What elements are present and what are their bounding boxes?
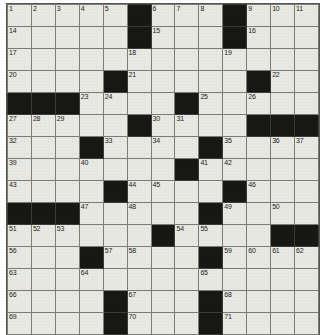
crossword-cell[interactable] xyxy=(31,313,55,335)
crossword-cell[interactable] xyxy=(175,291,199,313)
crossword-cell-numbered[interactable]: 44 xyxy=(127,181,151,203)
crossword-cell-numbered[interactable]: 25 xyxy=(199,93,223,115)
crossword-cell[interactable] xyxy=(223,269,247,291)
crossword-cell[interactable] xyxy=(295,49,319,71)
crossword-cell-numbered[interactable]: 26 xyxy=(247,93,271,115)
crossword-cell-numbered[interactable]: 2 xyxy=(31,5,55,27)
crossword-cell[interactable] xyxy=(175,27,199,49)
crossword-cell-numbered[interactable]: 6 xyxy=(151,5,175,27)
crossword-cell-numbered[interactable]: 55 xyxy=(199,225,223,247)
crossword-cell[interactable] xyxy=(79,71,103,93)
crossword-cell-numbered[interactable]: 33 xyxy=(103,137,127,159)
crossword-cell[interactable] xyxy=(127,269,151,291)
crossword-cell[interactable] xyxy=(247,291,271,313)
crossword-cell[interactable] xyxy=(247,225,271,247)
crossword-cell[interactable] xyxy=(103,159,127,181)
crossword-cell-numbered[interactable]: 54 xyxy=(175,225,199,247)
crossword-cell-numbered[interactable]: 29 xyxy=(55,115,79,137)
crossword-cell[interactable] xyxy=(175,49,199,71)
crossword-cell[interactable] xyxy=(223,93,247,115)
crossword-cell-numbered[interactable]: 28 xyxy=(31,115,55,137)
crossword-cell-numbered[interactable]: 40 xyxy=(79,159,103,181)
crossword-cell[interactable] xyxy=(199,181,223,203)
crossword-cell-numbered[interactable]: 71 xyxy=(223,313,247,335)
crossword-cell[interactable] xyxy=(271,27,295,49)
crossword-cell[interactable] xyxy=(31,49,55,71)
crossword-cell[interactable] xyxy=(175,269,199,291)
crossword-cell-numbered[interactable]: 63 xyxy=(8,269,32,291)
crossword-cell[interactable] xyxy=(295,93,319,115)
crossword-cell[interactable] xyxy=(55,181,79,203)
crossword-cell-numbered[interactable]: 49 xyxy=(223,203,247,225)
crossword-cell[interactable] xyxy=(199,27,223,49)
crossword-cell-numbered[interactable]: 14 xyxy=(8,27,32,49)
crossword-cell-numbered[interactable]: 53 xyxy=(55,225,79,247)
crossword-cell-numbered[interactable]: 39 xyxy=(8,159,32,181)
crossword-cell[interactable] xyxy=(31,27,55,49)
crossword-cell[interactable] xyxy=(103,203,127,225)
crossword-cell[interactable] xyxy=(127,225,151,247)
crossword-cell[interactable] xyxy=(79,225,103,247)
crossword-cell[interactable] xyxy=(223,225,247,247)
crossword-cell[interactable] xyxy=(55,71,79,93)
crossword-cell-numbered[interactable]: 7 xyxy=(175,5,199,27)
crossword-cell[interactable] xyxy=(79,181,103,203)
crossword-cell[interactable] xyxy=(271,291,295,313)
crossword-cell[interactable] xyxy=(175,247,199,269)
crossword-cell[interactable] xyxy=(31,269,55,291)
crossword-cell-numbered[interactable]: 3 xyxy=(55,5,79,27)
crossword-cell[interactable] xyxy=(151,93,175,115)
crossword-cell-numbered[interactable]: 70 xyxy=(127,313,151,335)
crossword-cell[interactable] xyxy=(103,115,127,137)
crossword-cell-numbered[interactable]: 66 xyxy=(8,291,32,313)
crossword-cell-numbered[interactable]: 69 xyxy=(8,313,32,335)
crossword-cell[interactable] xyxy=(151,49,175,71)
crossword-cell-numbered[interactable]: 57 xyxy=(103,247,127,269)
crossword-cell-numbered[interactable]: 37 xyxy=(295,137,319,159)
crossword-cell[interactable] xyxy=(175,181,199,203)
crossword-cell[interactable] xyxy=(103,225,127,247)
crossword-cell[interactable] xyxy=(55,137,79,159)
crossword-cell[interactable] xyxy=(151,203,175,225)
crossword-cell-numbered[interactable]: 18 xyxy=(127,49,151,71)
crossword-cell[interactable] xyxy=(247,313,271,335)
crossword-cell[interactable] xyxy=(295,203,319,225)
crossword-cell[interactable] xyxy=(55,159,79,181)
crossword-cell-numbered[interactable]: 22 xyxy=(271,71,295,93)
crossword-cell-numbered[interactable]: 62 xyxy=(295,247,319,269)
crossword-cell-numbered[interactable]: 58 xyxy=(127,247,151,269)
crossword-cell[interactable] xyxy=(295,159,319,181)
crossword-cell[interactable] xyxy=(199,115,223,137)
crossword-cell[interactable] xyxy=(175,203,199,225)
crossword-cell[interactable] xyxy=(31,71,55,93)
crossword-grid[interactable]: 1234567891011141516171819202122232425262… xyxy=(7,4,319,335)
crossword-cell[interactable] xyxy=(31,159,55,181)
crossword-cell-numbered[interactable]: 50 xyxy=(271,203,295,225)
crossword-cell-numbered[interactable]: 32 xyxy=(8,137,32,159)
crossword-cell[interactable] xyxy=(295,291,319,313)
crossword-cell[interactable] xyxy=(79,313,103,335)
crossword-cell[interactable] xyxy=(271,313,295,335)
crossword-cell-numbered[interactable]: 19 xyxy=(223,49,247,71)
crossword-cell-numbered[interactable]: 27 xyxy=(8,115,32,137)
crossword-cell-numbered[interactable]: 21 xyxy=(127,71,151,93)
crossword-cell[interactable] xyxy=(31,181,55,203)
crossword-cell[interactable] xyxy=(55,313,79,335)
crossword-cell-numbered[interactable]: 4 xyxy=(79,5,103,27)
crossword-cell[interactable] xyxy=(223,115,247,137)
crossword-cell[interactable] xyxy=(247,203,271,225)
crossword-cell-numbered[interactable]: 51 xyxy=(8,225,32,247)
crossword-cell-numbered[interactable]: 9 xyxy=(247,5,271,27)
crossword-cell[interactable] xyxy=(199,49,223,71)
crossword-cell[interactable] xyxy=(295,71,319,93)
crossword-cell[interactable] xyxy=(55,49,79,71)
crossword-cell[interactable] xyxy=(151,71,175,93)
crossword-cell[interactable] xyxy=(271,49,295,71)
crossword-cell[interactable] xyxy=(175,71,199,93)
crossword-cell-numbered[interactable]: 41 xyxy=(199,159,223,181)
crossword-cell-numbered[interactable]: 42 xyxy=(223,159,247,181)
crossword-cell-numbered[interactable]: 20 xyxy=(8,71,32,93)
crossword-cell-numbered[interactable]: 11 xyxy=(295,5,319,27)
crossword-cell[interactable] xyxy=(127,137,151,159)
crossword-cell[interactable] xyxy=(295,313,319,335)
